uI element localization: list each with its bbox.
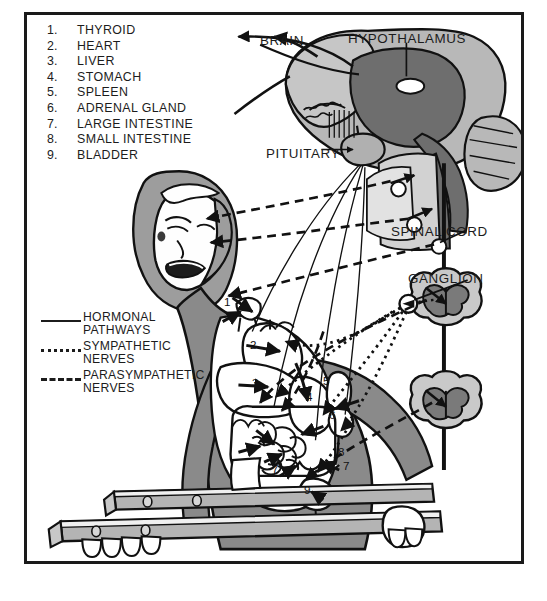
organ-marker-8: 8 — [338, 445, 344, 458]
dashed-line-icon — [39, 373, 83, 386]
organ-key-row: 8. SMALL INTESTINE — [47, 132, 262, 148]
organ-key-number: 8. — [47, 132, 77, 148]
legend-entry-sympathetic: SYMPATHETIC NERVES — [39, 340, 219, 367]
legend-label: PARASYMPATHETIC NERVES — [83, 369, 205, 396]
organ-marker-9: 9 — [304, 483, 310, 496]
organ-key-label: BLADDER — [77, 148, 138, 164]
legend-entry-parasympathetic: PARASYMPATHETIC NERVES — [39, 369, 219, 396]
organ-marker-7: 7 — [272, 462, 278, 475]
callout-ganglion: GANGLION — [408, 271, 484, 286]
organ-marker-6: 6 — [329, 408, 335, 421]
organ-key-label: HEART — [77, 39, 121, 55]
organ-key-row: 4. STOMACH — [47, 70, 262, 86]
organ-key-number: 1. — [47, 23, 77, 39]
figure-root: 1. THYROID 2. HEART 3. LIVER 4. STOMACH … — [0, 0, 547, 601]
organ-key-label: LIVER — [77, 54, 115, 70]
callout-brain: BRAIN — [260, 33, 304, 48]
organ-marker-2: 2 — [250, 338, 256, 351]
organ-marker-3: 3 — [252, 376, 258, 389]
callout-hypothalamus: HYPOTHALAMUS — [348, 31, 466, 46]
organ-key-label: SMALL INTESTINE — [77, 132, 191, 148]
organ-key-row: 3. LIVER — [47, 54, 262, 70]
solid-line-icon — [39, 315, 83, 328]
organ-marker-1: 1 — [224, 295, 230, 308]
organ-key-label: SPLEEN — [77, 85, 128, 101]
organ-key-number: 9. — [47, 148, 77, 164]
dotted-line-icon — [39, 344, 83, 357]
legend-label: HORMONAL PATHWAYS — [83, 311, 156, 338]
organ-key-row: 5. SPLEEN — [47, 85, 262, 101]
legend-entry-hormonal: HORMONAL PATHWAYS — [39, 311, 219, 338]
pathway-legend: HORMONAL PATHWAYS SYMPATHETIC NERVES PAR… — [39, 311, 219, 397]
organ-key-number: 3. — [47, 54, 77, 70]
organ-key-number: 5. — [47, 85, 77, 101]
organ-key-row: 1. THYROID — [47, 23, 262, 39]
organ-marker-5: 5 — [323, 374, 329, 387]
organ-key-label: ADRENAL GLAND — [77, 101, 186, 117]
organ-key-list: 1. THYROID 2. HEART 3. LIVER 4. STOMACH … — [47, 23, 262, 163]
organ-key-number: 2. — [47, 39, 77, 55]
organ-key-number: 7. — [47, 117, 77, 133]
organ-key-label: THYROID — [77, 23, 136, 39]
organ-key-row: 7. LARGE INTESTINE — [47, 117, 262, 133]
diagram-frame: 1. THYROID 2. HEART 3. LIVER 4. STOMACH … — [24, 12, 524, 564]
organ-marker-4: 4 — [306, 390, 312, 403]
organ-key-number: 6. — [47, 101, 77, 117]
organ-key-label: LARGE INTESTINE — [77, 117, 193, 133]
organ-key-row: 2. HEART — [47, 39, 262, 55]
callout-spinal-cord: SPINAL CORD — [391, 224, 488, 239]
ganglion-marker — [399, 295, 417, 313]
organ-marker-7: 7 — [343, 459, 349, 472]
organ-key-number: 4. — [47, 70, 77, 86]
callout-pituitary: PITUITARY — [266, 146, 340, 161]
organ-key-row: 9. BLADDER — [47, 148, 262, 164]
organ-key-label: STOMACH — [77, 70, 142, 86]
organ-key-row: 6. ADRENAL GLAND — [47, 101, 262, 117]
legend-label: SYMPATHETIC NERVES — [83, 340, 171, 367]
